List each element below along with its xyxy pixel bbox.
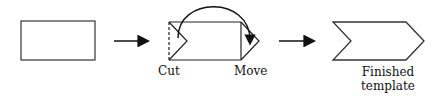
finished-label-line1: Finished [362,65,415,79]
finished-chevron-template [333,22,424,60]
move-label: Move [234,64,267,78]
moved-triangle [241,22,259,60]
tessellation-diagram: Cut Move Finished template [0,0,446,96]
finished-label-line2: template [361,79,415,93]
original-rectangle [21,21,95,60]
cut-move-figure: Cut Move [158,7,267,78]
move-arc-arrow [178,7,250,40]
cut-notch [169,22,187,60]
cut-label: Cut [158,64,180,78]
